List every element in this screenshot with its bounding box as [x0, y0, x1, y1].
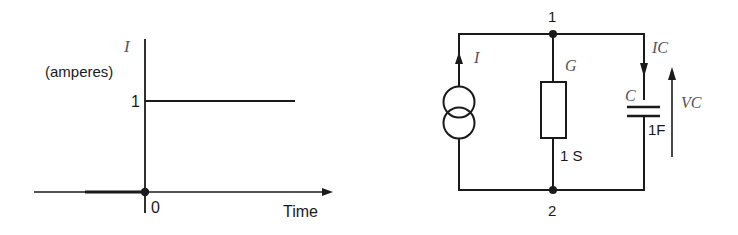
- source-current-arrow-icon: [455, 52, 463, 64]
- cap-current-arrow-icon: [640, 63, 648, 77]
- x-tick-label: 0: [151, 199, 160, 216]
- resistor-label: G: [565, 57, 577, 74]
- node-1-label: 1: [548, 8, 556, 25]
- cap-voltage-label: VC: [681, 94, 702, 111]
- x-axis-label: Time: [283, 203, 318, 220]
- y-axis-symbol: I: [123, 37, 131, 56]
- node-2-label: 2: [548, 202, 556, 219]
- x-axis-arrow-icon: [322, 188, 333, 196]
- resistor-icon: [541, 82, 566, 138]
- origin-dot: [141, 188, 149, 196]
- y-tick-label: 1: [131, 93, 140, 110]
- node-1-dot: [549, 30, 557, 38]
- step-graph: I (amperes) 1 0 Time: [34, 37, 333, 220]
- capacitor-label: C: [625, 87, 636, 104]
- cap-current-label: IC: [651, 39, 668, 56]
- node-2-dot: [549, 186, 557, 194]
- current-source-icon: [444, 87, 475, 139]
- capacitor-value: 1F: [648, 121, 666, 138]
- resistor-value: 1 S: [560, 147, 583, 164]
- circuit: 1 2 I G 1 S C 1F IC VC: [444, 8, 702, 219]
- capacitor-icon: [627, 107, 660, 116]
- y-axis-unit: (amperes): [45, 63, 113, 80]
- diagram-canvas: I (amperes) 1 0 Time: [0, 0, 738, 235]
- cap-voltage-arrowhead-icon: [668, 67, 676, 80]
- source-label: I: [473, 49, 480, 66]
